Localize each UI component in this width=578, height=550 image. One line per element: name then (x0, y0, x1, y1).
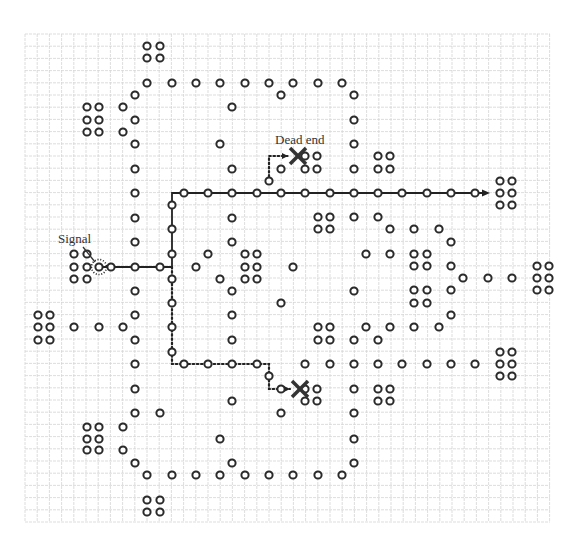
cell-circle (228, 360, 235, 367)
cell-circle (180, 360, 187, 367)
cell-circle (119, 446, 126, 453)
cell-circle (289, 79, 296, 86)
cell-circle (410, 299, 417, 306)
cell-circle (386, 165, 393, 172)
cell-circle (545, 274, 552, 281)
cell-circle (338, 471, 345, 478)
cell-circle (447, 286, 454, 293)
cell-circle (277, 189, 284, 196)
cell-circle (216, 471, 223, 478)
cell-circle (350, 459, 357, 466)
cell-circle (301, 189, 308, 196)
cell-circle (83, 128, 90, 135)
cell-circle (46, 323, 53, 330)
failed-path-2 (172, 267, 290, 389)
cell-circle (326, 336, 333, 343)
cell-circle (107, 263, 114, 270)
cell-circle (277, 299, 284, 306)
cell-circle (168, 323, 175, 330)
cell-circle (423, 262, 430, 269)
cell-circle (131, 165, 138, 172)
cell-circle (228, 336, 235, 343)
cell-circle (374, 165, 381, 172)
cell-circle (508, 274, 515, 281)
cell-circle (350, 116, 357, 123)
cell-circle (350, 385, 357, 392)
cell-circle (156, 409, 163, 416)
cell-circle (168, 79, 175, 86)
cell-circle (204, 360, 211, 367)
cell-circle (350, 213, 357, 220)
cell-circle (447, 360, 454, 367)
cell-circle (386, 250, 393, 257)
cell-circle (459, 274, 466, 281)
cell-circle (410, 225, 417, 232)
cell-circle (83, 423, 90, 430)
cell-circle (374, 360, 381, 367)
cell-circle (350, 336, 357, 343)
cell-circle (253, 263, 260, 270)
cell-circle (143, 42, 150, 49)
cell-circle (241, 263, 248, 270)
cell-circle (83, 435, 90, 442)
cell-circle (410, 250, 417, 257)
cell-circle (131, 91, 138, 98)
cell-circle (228, 165, 235, 172)
cell-circle (435, 225, 442, 232)
cell-circle (508, 189, 515, 196)
cell-circle (533, 286, 540, 293)
cell-circle (374, 336, 381, 343)
cell-circle (398, 189, 405, 196)
dead-end-label: Dead end (275, 133, 324, 146)
cell-circle (471, 189, 478, 196)
cell-circle (241, 79, 248, 86)
cell-circle (496, 348, 503, 355)
cell-circle (143, 496, 150, 503)
cell-circle (423, 250, 430, 257)
cell-circle (228, 214, 235, 221)
cell-circle (289, 263, 296, 270)
cell-circle (265, 471, 272, 478)
cell-circle (131, 311, 138, 318)
cell-circle (484, 274, 491, 281)
cell-circle (533, 274, 540, 281)
cell-circle (447, 189, 454, 196)
cell-circle (143, 79, 150, 86)
cell-circle (34, 311, 41, 318)
cell-circle (398, 360, 405, 367)
cell-circle (508, 348, 515, 355)
cell-circle (277, 385, 284, 392)
cell-circle (545, 262, 552, 269)
cell-circle (168, 471, 175, 478)
cell-circle (447, 311, 454, 318)
cell-circle (216, 140, 223, 147)
cell-circle (508, 201, 515, 208)
cell-circle (83, 116, 90, 123)
cell-circle (289, 471, 296, 478)
cell-circle (350, 435, 357, 442)
cell-circle (350, 140, 357, 147)
cell-circle (156, 54, 163, 61)
cell-circle (95, 323, 102, 330)
cell-circle (83, 275, 90, 282)
cell-circle (143, 471, 150, 478)
cell-circle (423, 360, 430, 367)
cell-circle (350, 165, 357, 172)
cell-circle (423, 299, 430, 306)
cell-circle (313, 165, 320, 172)
cell-circle (496, 189, 503, 196)
cell-circle (228, 287, 235, 294)
cell-circle (156, 263, 163, 270)
cell-circle (350, 409, 357, 416)
cell-circle (228, 189, 235, 196)
cell-circle (131, 263, 138, 270)
cell-circle (533, 262, 540, 269)
cell-circle (350, 189, 357, 196)
cell-circle (228, 103, 235, 110)
cell-circle (95, 103, 102, 110)
cell-circle (301, 397, 308, 404)
cell-circle (204, 250, 211, 257)
cell-circle (131, 336, 138, 343)
cell-circle (326, 360, 333, 367)
cell-circle (119, 103, 126, 110)
